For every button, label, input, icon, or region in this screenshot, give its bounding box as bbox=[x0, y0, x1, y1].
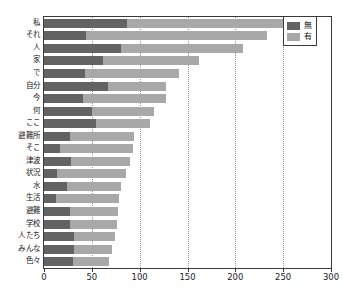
bar-row bbox=[44, 144, 133, 153]
y-axis-label: 私 bbox=[0, 18, 40, 27]
bar-row bbox=[44, 257, 109, 266]
bar-row bbox=[44, 119, 150, 128]
bar-row bbox=[44, 31, 267, 40]
y-axis-label: 状況 bbox=[0, 168, 40, 177]
y-axis-label: みんな bbox=[0, 244, 40, 253]
x-axis-label: 100 bbox=[132, 272, 148, 282]
y-axis-label: 家 bbox=[0, 55, 40, 64]
y-axis-label: で bbox=[0, 68, 40, 77]
y-axis-label: ここ bbox=[0, 118, 40, 127]
bar-segment-無 bbox=[44, 207, 70, 216]
bar-segment-有 bbox=[121, 44, 242, 53]
y-axis-label: 水 bbox=[0, 181, 40, 190]
bar-row bbox=[44, 82, 166, 91]
bar-segment-無 bbox=[44, 220, 70, 229]
bar-segment-有 bbox=[56, 194, 118, 203]
bar-segment-有 bbox=[73, 257, 109, 266]
x-axis-label: 150 bbox=[179, 272, 195, 282]
bar-segment-有 bbox=[60, 144, 133, 153]
bar-row bbox=[44, 107, 154, 116]
bar-segment-無 bbox=[44, 182, 67, 191]
bar-segment-有 bbox=[108, 82, 166, 91]
bar-segment-無 bbox=[44, 44, 121, 53]
bar-row bbox=[44, 56, 199, 65]
y-axis-label: それ bbox=[0, 30, 40, 39]
bar-row bbox=[44, 157, 130, 166]
bar-segment-有 bbox=[103, 56, 199, 65]
x-axis-label: 50 bbox=[86, 272, 97, 282]
bar-segment-無 bbox=[44, 169, 57, 178]
x-axis-labels: 050100150200250300 bbox=[0, 272, 343, 286]
plot-area bbox=[43, 16, 332, 269]
y-axis-label: 自分 bbox=[0, 81, 40, 90]
bar-row bbox=[44, 232, 115, 241]
y-axis-label: 避難 bbox=[0, 206, 40, 215]
bar-segment-有 bbox=[71, 157, 130, 166]
y-axis-label: 今 bbox=[0, 93, 40, 102]
bar-segment-有 bbox=[74, 232, 115, 241]
legend: 無 有 bbox=[283, 16, 317, 46]
bar-row bbox=[44, 245, 112, 254]
bar-segment-無 bbox=[44, 69, 85, 78]
bar-row bbox=[44, 169, 126, 178]
y-axis-label: 人たち bbox=[0, 231, 40, 240]
bar-row bbox=[44, 182, 121, 191]
bar-segment-無 bbox=[44, 257, 73, 266]
y-axis-label: 学校 bbox=[0, 219, 40, 228]
bar-segment-無 bbox=[44, 157, 71, 166]
x-axis-label: 200 bbox=[227, 272, 243, 282]
bar-segment-無 bbox=[44, 194, 56, 203]
x-axis-label: 0 bbox=[41, 272, 46, 282]
bar-row bbox=[44, 44, 243, 53]
legend-label-mu: 無 bbox=[304, 21, 312, 30]
bar-row bbox=[44, 194, 119, 203]
bar-segment-無 bbox=[44, 144, 60, 153]
bar-row bbox=[44, 19, 288, 28]
bar-segment-有 bbox=[85, 69, 179, 78]
bar-row bbox=[44, 94, 166, 103]
legend-item-1: 有 bbox=[287, 31, 312, 42]
y-axis-label: 色々 bbox=[0, 256, 40, 265]
bar-segment-有 bbox=[96, 119, 151, 128]
bar-segment-有 bbox=[127, 19, 288, 28]
bar-segment-無 bbox=[44, 82, 108, 91]
x-axis-label: 250 bbox=[275, 272, 291, 282]
bar-row bbox=[44, 69, 179, 78]
bar-segment-有 bbox=[86, 31, 267, 40]
y-axis-label: 津波 bbox=[0, 156, 40, 165]
bar-row bbox=[44, 220, 117, 229]
bar-segment-無 bbox=[44, 56, 103, 65]
legend-item-0: 無 bbox=[287, 20, 312, 31]
bar-row bbox=[44, 132, 134, 141]
bar-segment-無 bbox=[44, 245, 74, 254]
y-axis-label: 生活 bbox=[0, 193, 40, 202]
bar-segment-有 bbox=[70, 132, 134, 141]
y-axis-label: 人 bbox=[0, 43, 40, 52]
bar-segment-無 bbox=[44, 232, 74, 241]
bar-segment-無 bbox=[44, 107, 92, 116]
bar-segment-有 bbox=[70, 207, 118, 216]
legend-swatch-mu bbox=[287, 22, 300, 30]
bars-layer bbox=[44, 17, 331, 268]
bar-chart: 私それ人家で自分今何ここ避難所そこ津波状況水生活避難学校人たちみんな色々 050… bbox=[0, 0, 343, 301]
legend-swatch-yuu bbox=[287, 33, 300, 41]
bar-segment-有 bbox=[74, 245, 112, 254]
y-axis-label: そこ bbox=[0, 143, 40, 152]
bar-segment-無 bbox=[44, 94, 83, 103]
bar-segment-有 bbox=[70, 220, 117, 229]
y-axis-label: 何 bbox=[0, 106, 40, 115]
y-axis-label: 避難所 bbox=[0, 131, 40, 140]
x-axis-label: 300 bbox=[323, 272, 339, 282]
bar-segment-無 bbox=[44, 31, 86, 40]
bar-segment-有 bbox=[83, 94, 166, 103]
y-axis-labels: 私それ人家で自分今何ここ避難所そこ津波状況水生活避難学校人たちみんな色々 bbox=[0, 16, 40, 269]
bar-segment-無 bbox=[44, 19, 127, 28]
bar-segment-有 bbox=[92, 107, 154, 116]
legend-label-yuu: 有 bbox=[304, 32, 312, 41]
bar-segment-有 bbox=[57, 169, 126, 178]
bar-segment-無 bbox=[44, 132, 70, 141]
bar-row bbox=[44, 207, 118, 216]
bar-segment-無 bbox=[44, 119, 96, 128]
bar-segment-有 bbox=[67, 182, 122, 191]
